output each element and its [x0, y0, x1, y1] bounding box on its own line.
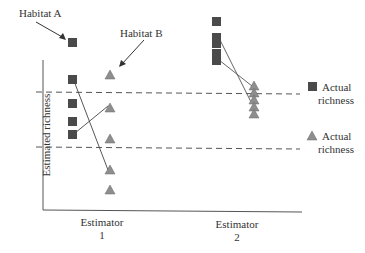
richness-estimator-diagram — [0, 0, 365, 253]
square-marker — [212, 56, 221, 65]
legend-line1: Actual — [322, 130, 354, 143]
x-category-line1: Estimator — [205, 218, 269, 231]
square-marker — [68, 38, 77, 47]
y-axis-label: Estimated richness — [40, 94, 52, 177]
x-category-estimator-1: Estimator 1 — [70, 216, 134, 242]
legend-line1: Actual — [322, 81, 354, 94]
triangle-marker — [105, 134, 115, 143]
legend-item-habitat-b: Actual richness — [322, 130, 354, 156]
square-marker — [212, 39, 221, 48]
actual-richness-line-habitat-b — [36, 147, 300, 149]
habitat-a-markers-estimator-1 — [68, 38, 77, 139]
habitat-b-markers-estimator-1 — [105, 70, 115, 194]
link-line — [219, 38, 252, 104]
link-line — [219, 60, 252, 86]
habitat-a-callout: Habitat A — [19, 7, 61, 20]
square-marker — [68, 130, 77, 139]
x-category-line2: 1 — [70, 229, 134, 242]
legend-item-habitat-a: Actual richness — [322, 81, 354, 107]
x-category-line2: 2 — [205, 231, 269, 244]
actual-richness-line-habitat-a — [36, 92, 300, 94]
link-line — [74, 81, 108, 170]
x-category-line1: Estimator — [70, 216, 134, 229]
square-marker — [68, 99, 77, 108]
triangle-marker — [105, 70, 115, 79]
legend-square-icon — [308, 82, 317, 91]
habitat-a-markers-estimator-2 — [212, 17, 221, 65]
x-category-estimator-2: Estimator 2 — [205, 218, 269, 244]
habitat-a-arrow — [36, 22, 66, 40]
link-line — [75, 106, 108, 133]
square-marker — [68, 75, 77, 84]
legend-line2: richness — [318, 94, 354, 107]
square-marker — [68, 117, 77, 126]
square-marker — [212, 17, 221, 26]
x-axis — [43, 210, 302, 212]
habitat-b-callout: Habitat B — [120, 27, 162, 40]
habitat-b-arrow — [119, 40, 144, 67]
habitat-b-markers-estimator-2 — [249, 81, 259, 118]
triangle-marker — [105, 185, 115, 194]
legend-line2: richness — [318, 143, 354, 156]
legend-triangle-icon — [307, 131, 317, 140]
